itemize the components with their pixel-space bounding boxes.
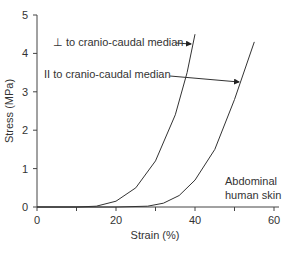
curves [37, 34, 254, 207]
y-tick-label: 1 [22, 163, 28, 175]
arrow-parallel [170, 76, 239, 82]
annotation-line-2: human skin [225, 189, 281, 201]
y-tick-label: 2 [22, 124, 28, 136]
curve-0 [37, 34, 195, 207]
annotation-line-1: Abdominal [225, 175, 277, 187]
y-axis-label: Stress (MPa) [3, 79, 15, 143]
y-tick-label: 4 [22, 47, 28, 59]
x-tick-label: 20 [110, 214, 122, 226]
x-tick-label: 0 [34, 214, 40, 226]
x-axis-label: Strain (%) [131, 229, 180, 241]
y-tick-label: 0 [22, 201, 28, 213]
y-tick-label: 5 [22, 9, 28, 21]
y-tick-label: 3 [22, 86, 28, 98]
chart: 0123450204060 Stress (MPa) Strain (%) ⊥ … [0, 0, 291, 253]
x-tick-label: 60 [268, 214, 280, 226]
legend-perpendicular: ⊥ to cranio-caudal median [53, 36, 183, 48]
x-tick-label: 40 [189, 214, 201, 226]
curve-1 [37, 42, 254, 207]
legend-parallel: II to cranio-caudal median [44, 68, 171, 80]
stress-strain-plot: 0123450204060 Stress (MPa) Strain (%) ⊥ … [0, 0, 291, 253]
